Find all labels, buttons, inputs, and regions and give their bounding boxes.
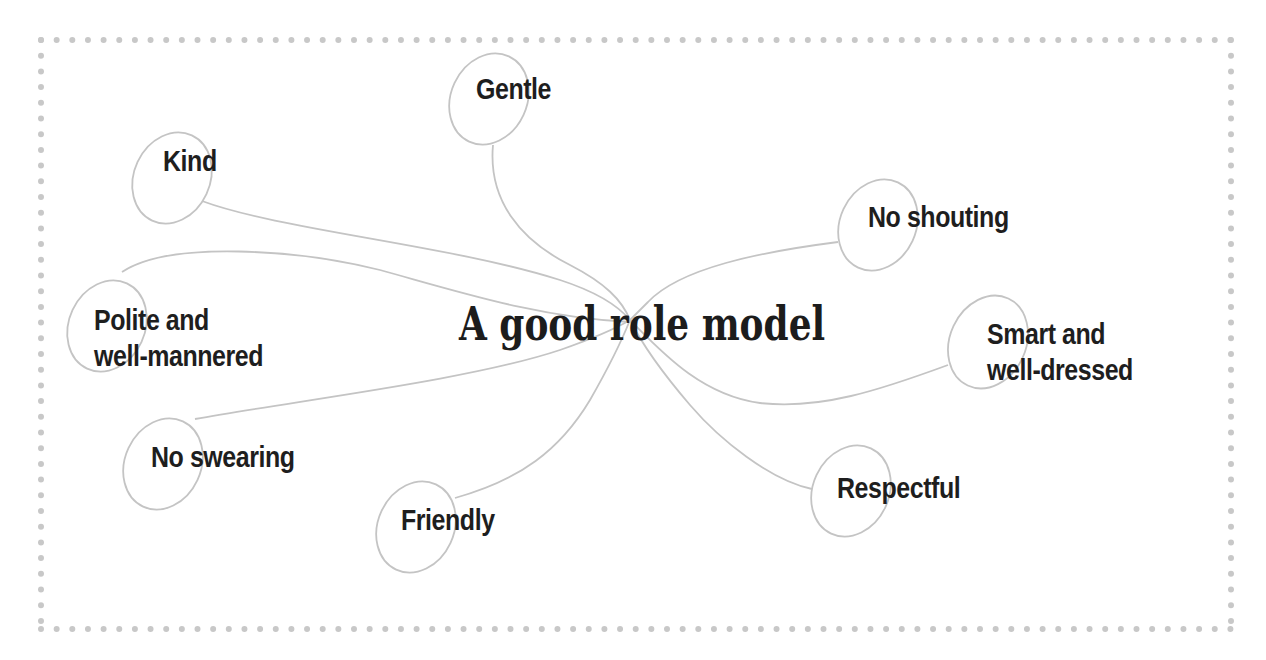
- node-label-line-1: Polite and: [94, 302, 263, 338]
- node-smart: Smart and well-dressed: [987, 316, 1133, 388]
- node-label: Gentle: [476, 73, 551, 105]
- center-title: A good role model: [459, 296, 825, 352]
- node-label: No shouting: [868, 201, 1009, 233]
- node-no-swearing: No swearing: [151, 439, 295, 475]
- node-polite: Polite and well-mannered: [94, 302, 263, 374]
- node-gentle: Gentle: [476, 71, 551, 107]
- node-label-line-1: Smart and: [987, 316, 1133, 352]
- node-label: Respectful: [837, 472, 960, 504]
- node-label: Friendly: [401, 504, 495, 536]
- node-respectful: Respectful: [837, 470, 960, 506]
- node-friendly: Friendly: [401, 502, 495, 538]
- node-kind: Kind: [163, 143, 217, 179]
- node-label: Kind: [163, 145, 217, 177]
- connector-gentle: [492, 145, 630, 320]
- node-label-line-2: well-dressed: [987, 352, 1133, 388]
- node-label: No swearing: [151, 441, 295, 473]
- node-label-line-2: well-mannered: [94, 338, 263, 374]
- node-no-shouting: No shouting: [868, 199, 1009, 235]
